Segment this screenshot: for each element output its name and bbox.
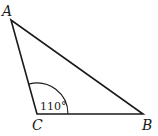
vertex-label-b: B [141, 117, 152, 133]
angle-label-c: 110° [40, 100, 67, 113]
triangle-abc [11, 20, 143, 114]
vertex-label-a: A [0, 3, 12, 19]
triangle-diagram: A C B 110° [0, 0, 158, 136]
vertex-label-c: C [32, 117, 43, 133]
